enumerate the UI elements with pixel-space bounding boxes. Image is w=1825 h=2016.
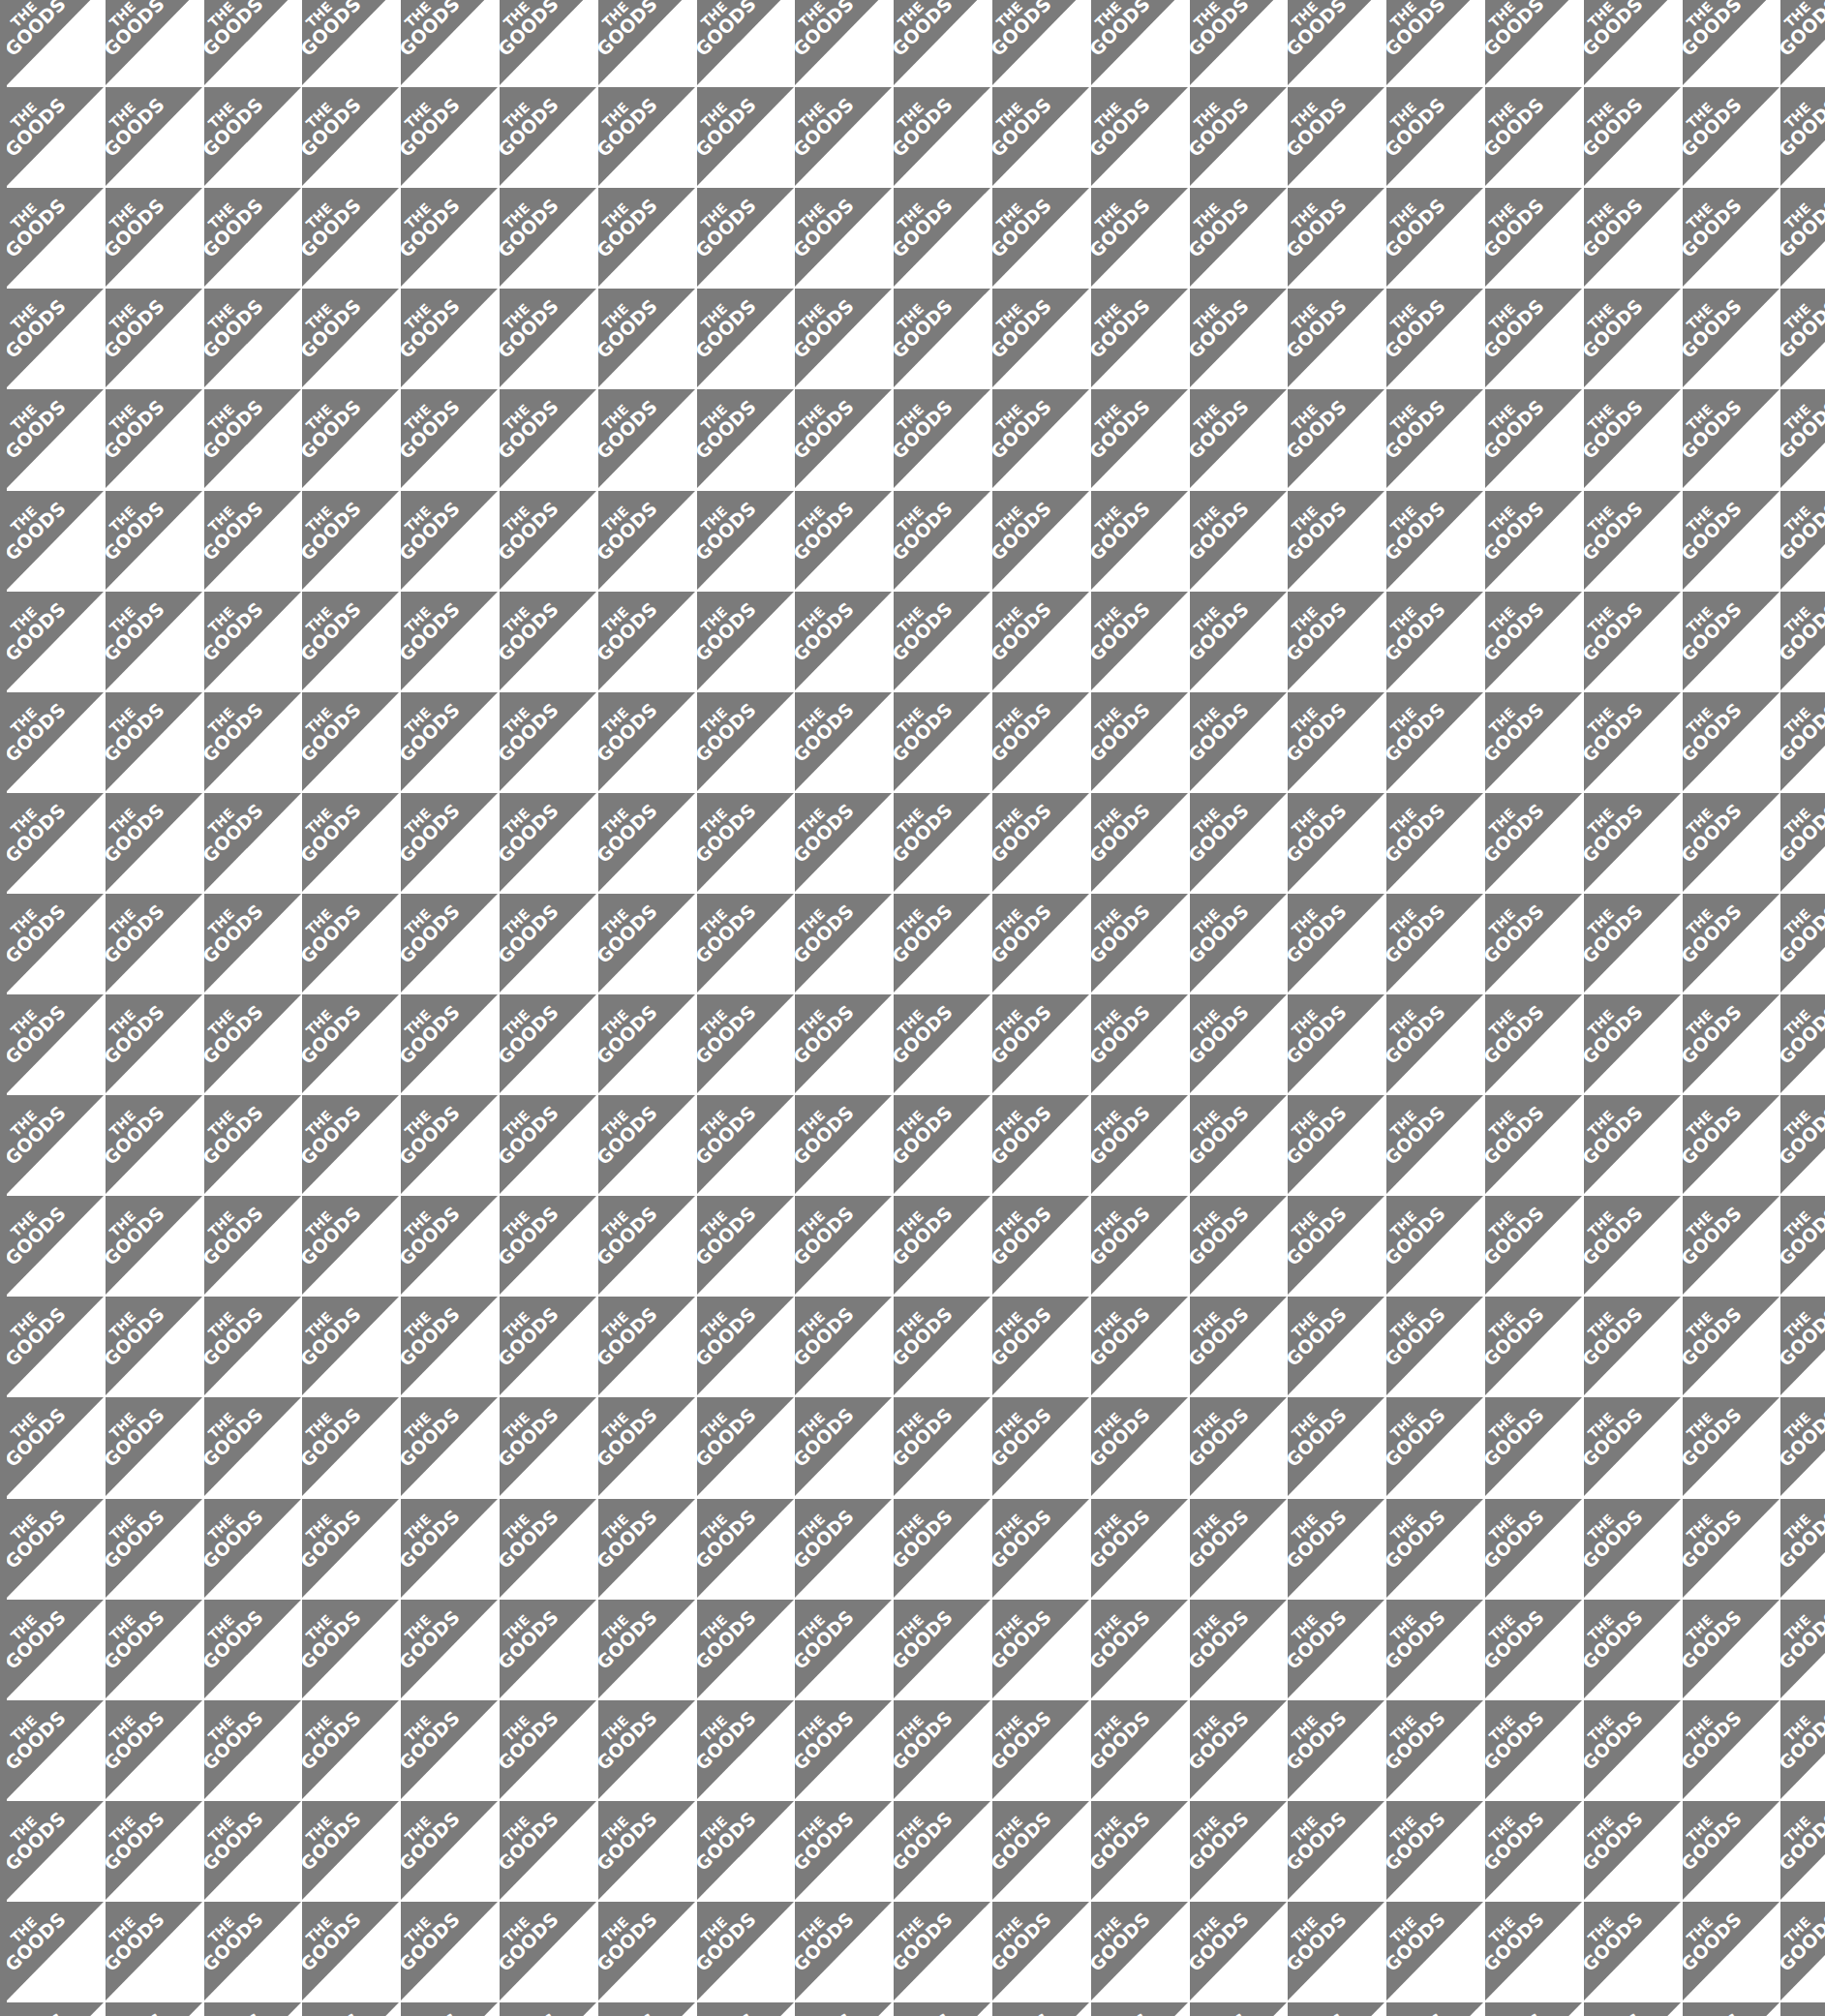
brand-triangle-icon: THE GOODS <box>106 0 202 85</box>
brand-triangle-icon: THE GOODS <box>1190 1801 1287 1900</box>
brand-triangle-icon: THE GOODS <box>401 994 498 1093</box>
brand-tile: THE GOODS <box>401 1196 500 1297</box>
brand-triangle-icon: THE GOODS <box>1584 592 1681 690</box>
brand-triangle-icon: THE GOODS <box>204 1499 301 1598</box>
brand-triangle-icon: THE GOODS <box>1386 0 1483 85</box>
brand-triangle-icon: THE GOODS <box>302 1397 399 1496</box>
brand-triangle-icon: THE GOODS <box>7 491 104 590</box>
brand-tile: THE GOODS <box>795 389 894 490</box>
brand-tile: THE GOODS <box>1780 1397 1825 1498</box>
brand-tile: THE GOODS <box>401 692 500 793</box>
brand-tile: THE GOODS <box>1485 1095 1584 1196</box>
brand-tile: THE GOODS <box>1780 994 1825 1095</box>
brand-tile: THE GOODS <box>1683 1600 1781 1700</box>
brand-tile: THE GOODS <box>7 1397 106 1498</box>
brand-triangle-icon: THE GOODS <box>7 1397 104 1496</box>
brand-triangle-icon: THE GOODS <box>992 1297 1089 1395</box>
brand-triangle-icon: THE GOODS <box>1091 994 1188 1093</box>
brand-triangle-icon: THE GOODS <box>204 1902 301 2001</box>
brand-triangle-icon: THE GOODS <box>1485 1397 1582 1496</box>
brand-triangle-icon: THE GOODS <box>401 592 498 690</box>
brand-triangle-icon: THE GOODS <box>204 1095 301 1194</box>
brand-triangle-icon: THE GOODS <box>598 188 695 287</box>
brand-tile: THE GOODS <box>106 994 204 1095</box>
brand-tile: THE GOODS <box>697 1297 796 1397</box>
brand-tile: THE GOODS <box>894 0 992 87</box>
brand-triangle-icon: THE GOODS <box>1584 793 1681 892</box>
brand-triangle-icon: THE GOODS <box>1288 87 1384 186</box>
brand-triangle-icon: THE GOODS <box>1780 389 1825 488</box>
brand-triangle-icon: THE GOODS <box>500 2002 596 2016</box>
brand-tile: THE GOODS <box>302 1902 401 2002</box>
brand-triangle-icon: THE GOODS <box>1683 994 1779 1093</box>
brand-tile: THE GOODS <box>1584 1700 1683 1801</box>
brand-tile: THE GOODS <box>500 1700 598 1801</box>
brand-triangle-icon: THE GOODS <box>401 1397 498 1496</box>
brand-tile: THE GOODS <box>1683 1801 1781 1902</box>
brand-triangle-icon: THE GOODS <box>302 1700 399 1799</box>
brand-tile: THE GOODS <box>992 389 1091 490</box>
brand-tile: THE GOODS <box>1584 1499 1683 1600</box>
brand-triangle-icon: THE GOODS <box>1091 87 1188 186</box>
brand-tile: THE GOODS <box>302 2002 401 2016</box>
brand-triangle-icon: THE GOODS <box>1386 592 1483 690</box>
brand-tile: THE GOODS <box>1584 994 1683 1095</box>
brand-triangle-icon: THE GOODS <box>992 87 1089 186</box>
brand-triangle-icon: THE GOODS <box>1190 1700 1287 1799</box>
brand-tile: THE GOODS <box>1190 2002 1289 2016</box>
brand-triangle-icon: THE GOODS <box>598 1095 695 1194</box>
brand-tile: THE GOODS <box>598 2002 697 2016</box>
brand-triangle-icon: THE GOODS <box>1190 1902 1287 2001</box>
brand-triangle-icon: THE GOODS <box>697 1196 794 1295</box>
brand-tile: THE GOODS <box>697 87 796 188</box>
brand-tile: THE GOODS <box>7 793 106 894</box>
brand-triangle-icon: THE GOODS <box>1091 389 1188 488</box>
brand-triangle-icon: THE GOODS <box>1780 1499 1825 1598</box>
brand-triangle-icon: THE GOODS <box>1485 491 1582 590</box>
brand-tile: THE GOODS <box>204 289 303 389</box>
brand-triangle-icon: THE GOODS <box>204 491 301 590</box>
brand-triangle-icon: THE GOODS <box>1386 1902 1483 2001</box>
brand-triangle-icon: THE GOODS <box>204 692 301 791</box>
brand-tile: THE GOODS <box>1386 289 1485 389</box>
brand-tile: THE GOODS <box>992 793 1091 894</box>
brand-tile: THE GOODS <box>894 1600 992 1700</box>
brand-tile: THE GOODS <box>106 1801 204 1902</box>
brand-tile: THE GOODS <box>1584 692 1683 793</box>
brand-tile: THE GOODS <box>894 1095 992 1196</box>
brand-triangle-icon: THE GOODS <box>1288 1600 1384 1698</box>
brand-triangle-icon: THE GOODS <box>598 87 695 186</box>
brand-triangle-icon: THE GOODS <box>697 1801 794 1900</box>
brand-triangle-icon: THE GOODS <box>1683 1600 1779 1698</box>
brand-triangle-icon: THE GOODS <box>401 87 498 186</box>
brand-tile: THE GOODS <box>1780 1297 1825 1397</box>
brand-triangle-icon: THE GOODS <box>500 1700 596 1799</box>
brand-tile: THE GOODS <box>204 1297 303 1397</box>
brand-tile: THE GOODS <box>697 1196 796 1297</box>
brand-triangle-icon: THE GOODS <box>1386 1196 1483 1295</box>
brand-triangle-icon: THE GOODS <box>992 289 1089 387</box>
brand-triangle-icon: THE GOODS <box>894 793 990 892</box>
brand-tile: THE GOODS <box>7 1196 106 1297</box>
brand-triangle-icon: THE GOODS <box>7 1499 104 1598</box>
brand-triangle-icon: THE GOODS <box>795 1801 892 1900</box>
brand-triangle-icon: THE GOODS <box>894 1700 990 1799</box>
brand-triangle-icon: THE GOODS <box>1288 188 1384 287</box>
brand-triangle-icon: THE GOODS <box>1584 1700 1681 1799</box>
brand-triangle-icon: THE GOODS <box>1190 692 1287 791</box>
brand-triangle-icon: THE GOODS <box>894 1801 990 1900</box>
brand-triangle-icon: THE GOODS <box>992 491 1089 590</box>
brand-tile: THE GOODS <box>1683 1297 1781 1397</box>
brand-tile: THE GOODS <box>894 1397 992 1498</box>
brand-tile: THE GOODS <box>106 87 204 188</box>
brand-tile: THE GOODS <box>1584 188 1683 289</box>
brand-triangle-icon: THE GOODS <box>598 1801 695 1900</box>
brand-tile: THE GOODS <box>1485 2002 1584 2016</box>
brand-tile: THE GOODS <box>204 87 303 188</box>
brand-triangle-icon: THE GOODS <box>795 894 892 993</box>
brand-tile: THE GOODS <box>204 1397 303 1498</box>
brand-triangle-icon: THE GOODS <box>795 994 892 1093</box>
brand-tile: THE GOODS <box>894 87 992 188</box>
brand-tile: THE GOODS <box>598 87 697 188</box>
brand-tile: THE GOODS <box>1584 1196 1683 1297</box>
